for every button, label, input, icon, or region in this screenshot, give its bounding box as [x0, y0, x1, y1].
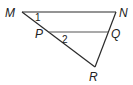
angle-2-label: 2: [62, 34, 68, 45]
segment-MR: [22, 12, 95, 67]
angle-1-label: 1: [35, 12, 41, 23]
label-P: P: [35, 27, 43, 41]
label-Q: Q: [111, 27, 120, 41]
label-R: R: [89, 70, 98, 84]
geometry-diagram: M N P Q R 1 2: [0, 0, 133, 85]
label-N: N: [119, 6, 128, 20]
label-M: M: [5, 6, 15, 20]
